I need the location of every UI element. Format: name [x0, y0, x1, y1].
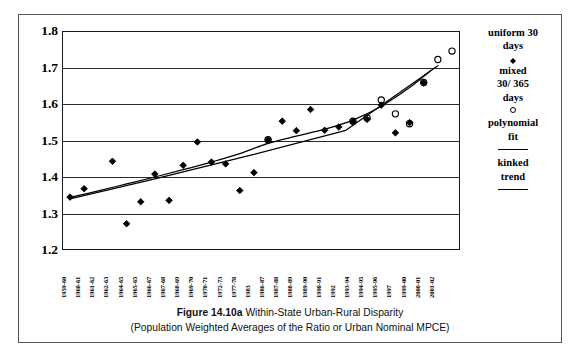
x-axis-tick-label: 1965-65 — [131, 277, 138, 298]
data-point-filled-diamond — [251, 169, 258, 176]
x-axis-tick-label: 1993-94 — [343, 277, 350, 298]
x-axis-tick-label: 1964-65 — [117, 277, 124, 298]
y-axis-tick-label: 1.4 — [41, 170, 58, 184]
x-axis-tick-label: 1986-87 — [258, 277, 265, 298]
open-circle-marker-icon — [510, 107, 516, 113]
y-axis-tick-label: 1.2 — [41, 243, 58, 257]
legend-label-uniform-line2: days — [468, 39, 558, 52]
x-axis-tick-label: 1959-60 — [60, 277, 67, 298]
legend-label-mixed-line2: 30/ 365 — [468, 77, 558, 90]
legend-label-uniform-line1: uniform 30 — [468, 26, 558, 39]
x-axis-tick-label: 1990-91 — [315, 277, 322, 298]
data-point-filled-diamond — [194, 139, 201, 146]
data-point-filled-diamond — [67, 194, 74, 201]
x-axis-tick-label: 1999-00 — [400, 277, 407, 298]
y-axis-tick-label: 1.7 — [41, 61, 58, 75]
legend-label-kinked-line2: trend — [468, 170, 558, 183]
data-point-filled-diamond — [166, 197, 173, 204]
legend-label-poly-line1: polynomial — [468, 116, 558, 129]
x-axis-tick-label: 1961-62 — [88, 277, 95, 298]
legend-label-mixed-line3: days — [468, 91, 558, 104]
data-point-filled-diamond — [279, 118, 286, 125]
data-point-filled-diamond — [293, 127, 300, 134]
data-point-filled-diamond — [236, 187, 243, 194]
data-point-open-circle — [449, 48, 455, 54]
x-axis-tick-label: 1969-70 — [187, 277, 194, 298]
x-axis-tick-label: 1972-73 — [216, 277, 223, 298]
x-axis-tick-label: 1962-63 — [102, 277, 109, 298]
caption-figure-number: Figure 14.10a — [177, 307, 243, 318]
filled-diamond-marker-icon — [510, 55, 516, 61]
caption-title: Within-State Urban-Rural Disparity — [245, 307, 403, 318]
data-point-filled-diamond — [123, 220, 130, 227]
y-axis-labels: 1.21.31.41.51.61.71.8 — [20, 31, 58, 250]
legend-label-kinked-line1: kinked — [468, 156, 558, 169]
x-axis-tick-label: 1994-95 — [357, 277, 364, 298]
legend-label-poly-line2: fit — [468, 130, 558, 143]
y-axis-tick-label: 1.8 — [41, 24, 58, 38]
data-series-layer — [62, 31, 460, 250]
x-axis-tick-label: 1992 — [329, 285, 336, 298]
x-axis-tick-label: 1967-68 — [159, 277, 166, 298]
data-point-open-circle — [392, 111, 398, 117]
polynomial-fit-curve — [70, 70, 431, 197]
x-axis-tick-label: 1970-71 — [201, 277, 208, 298]
polynomial-fit-line-icon — [498, 149, 528, 150]
data-point-filled-diamond — [307, 106, 314, 113]
x-axis-tick-label: 1968-69 — [173, 277, 180, 298]
x-axis-tick-label: 2001-02 — [428, 277, 435, 298]
figure-caption: Figure 14.10a Within-State Urban-Rural D… — [24, 306, 556, 336]
y-axis-tick-label: 1.3 — [41, 207, 58, 221]
x-axis-labels: 1959-601960-611961-621962-631964-651965-… — [62, 252, 460, 298]
x-axis-tick-label: 1989-90 — [301, 277, 308, 298]
x-axis-tick-label: 1960-61 — [74, 277, 81, 298]
kinked-trend-line-icon — [498, 189, 528, 190]
data-point-filled-diamond — [81, 185, 88, 192]
x-axis-tick-label: 1966-67 — [145, 277, 152, 298]
x-axis-tick-label: 1995-96 — [371, 277, 378, 298]
caption-line-2: (Population Weighted Averages of the Rat… — [24, 321, 556, 336]
data-point-filled-diamond — [392, 130, 399, 137]
kinked-trend-curve — [70, 66, 438, 199]
y-axis-tick-label: 1.6 — [41, 97, 58, 111]
x-axis-tick-label: 1987-88 — [272, 277, 279, 298]
data-point-filled-diamond — [180, 162, 187, 169]
x-axis-tick-label: 1988-89 — [286, 277, 293, 298]
caption-line-1: Figure 14.10a Within-State Urban-Rural D… — [24, 306, 556, 321]
chart-legend: uniform 30 days mixed 30/ 365 days polyn… — [468, 26, 558, 196]
plot-area — [62, 31, 460, 250]
figure-root: 1.21.31.41.51.61.71.8 1959-601960-611961… — [0, 0, 580, 355]
x-axis-tick-label: 1997 — [385, 285, 392, 298]
y-axis-tick-label: 1.5 — [41, 134, 58, 148]
data-point-filled-diamond — [109, 158, 116, 165]
data-point-filled-diamond — [137, 199, 144, 206]
x-axis-tick-label: 1983 — [244, 285, 251, 298]
data-point-open-circle — [435, 56, 441, 62]
x-axis-tick-label: 1977-78 — [230, 277, 237, 298]
x-axis-tick-label: 2000-01 — [414, 277, 421, 298]
